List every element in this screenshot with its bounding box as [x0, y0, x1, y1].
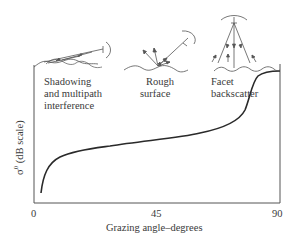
- shadowing-inset-icon: [34, 42, 111, 68]
- rough-surface-label: Rough surface: [140, 76, 174, 100]
- rough-surface-label-line1: Rough: [140, 76, 174, 88]
- x-tick-45: 45: [151, 208, 162, 219]
- facet-backscatter-label-line2: backscatter: [211, 88, 258, 100]
- y-axis-label: σ0 (dB scale): [12, 120, 25, 175]
- shadowing-label-line3: interference: [44, 100, 102, 112]
- shadowing-label: Shadowing and multipath interference: [44, 76, 102, 112]
- x-axis-label: Grazing angle–degrees: [106, 222, 203, 233]
- facet-backscatter-label-line1: Facet: [211, 76, 258, 88]
- y-axis-label-sup: 0: [12, 166, 20, 170]
- diagram-canvas: [0, 0, 300, 243]
- rough-surface-inset-icon: [124, 31, 195, 72]
- y-axis-label-sigma: σ: [14, 169, 25, 175]
- facet-backscatter-label: Facet backscatter: [211, 76, 258, 100]
- y-axis-label-rest: (dB scale): [14, 120, 25, 165]
- shadowing-label-line1: Shadowing: [44, 76, 102, 88]
- rough-surface-label-line2: surface: [140, 88, 174, 100]
- x-tick-0: 0: [31, 208, 36, 219]
- shadowing-label-line2: and multipath: [44, 88, 102, 100]
- facet-backscatter-inset-icon: [212, 16, 280, 72]
- x-tick-90: 90: [272, 208, 283, 219]
